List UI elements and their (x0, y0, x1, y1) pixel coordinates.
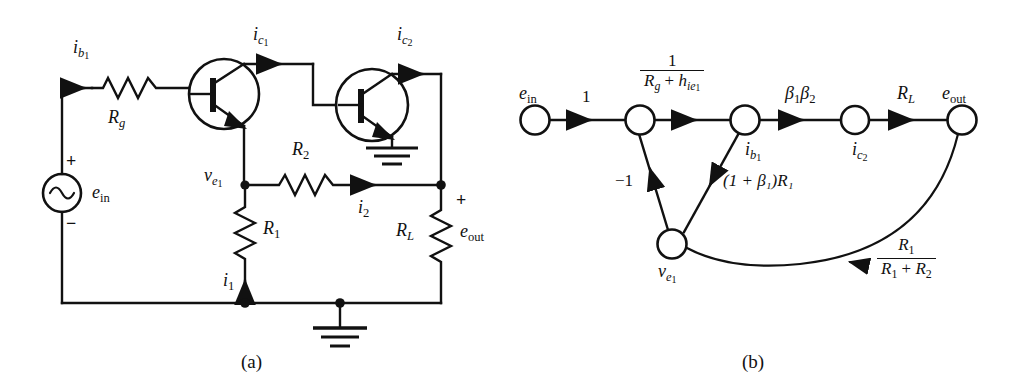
figure-artwork (0, 0, 1012, 384)
label-output-eout: eout (460, 222, 484, 244)
flow-node-ib1[interactable] (731, 106, 760, 135)
flow-node-ve1[interactable] (658, 230, 687, 259)
ground-symbol-main (313, 303, 367, 346)
flow-label-gain-1-over-rg-plus-hie1: 1 Rg + hie1 (640, 52, 704, 94)
wire-q1c-to-q2b (313, 64, 339, 105)
label-current-i2: i2 (358, 198, 369, 220)
flow-label-gain-rl: RL (897, 84, 915, 106)
label-resistor-r2: R2 (292, 140, 309, 162)
label-resistor-r1: R1 (263, 219, 280, 241)
resistor-rl (431, 185, 451, 303)
flow-label-node-ve1: ve1 (658, 262, 677, 285)
flow-label-gain-beta1-beta2: β1β2 (785, 84, 816, 106)
flow-node-eout[interactable] (948, 106, 977, 135)
ground-symbol-q2 (366, 148, 418, 164)
resistor-rg (92, 78, 190, 98)
label-current-ic2: ic2 (397, 25, 413, 48)
caption-b: (b) (742, 352, 764, 371)
flow-node-n2[interactable] (626, 106, 655, 135)
flow-label-gain-r1-over-r1-plus-r2: R1 R1 + R2 (877, 236, 936, 280)
flow-label-node-ic2: ic2 (852, 140, 868, 163)
label-current-ib1: ib1 (73, 38, 89, 61)
figure-container: ib1 Rg ic1 ic2 + ein − ve1 R2 i2 R1 i1 R… (0, 0, 1012, 384)
flow-node-ic2[interactable] (841, 106, 869, 134)
caption-a: (a) (241, 352, 262, 371)
branch-ve1-n2 (639, 134, 668, 230)
flow-label-gain-1-plus-beta1-r1: (1 + β₁)R₁ (723, 172, 793, 189)
label-source-minus: − (66, 214, 76, 232)
label-resistor-rg: Rg (108, 108, 125, 130)
flow-label-gain-1: 1 (582, 88, 591, 105)
node-dot-bottom-left (240, 298, 250, 308)
label-current-ic1: ic1 (253, 25, 269, 48)
label-resistor-rl: RL (396, 221, 414, 243)
label-current-i1: i1 (223, 271, 234, 293)
label-source-ein: ein (92, 183, 110, 205)
resistor-r2 (245, 175, 441, 195)
flow-label-node-ib1: ib1 (745, 140, 761, 163)
transistor-q2 (336, 69, 441, 147)
ac-source (43, 88, 81, 303)
flow-label-gain-minus-1: −1 (615, 172, 633, 189)
label-output-plus: + (456, 191, 466, 209)
flow-node-ein[interactable] (521, 106, 550, 135)
label-node-ve1: ve1 (204, 166, 223, 189)
flow-label-node-ein: ein (519, 84, 537, 106)
label-source-plus: + (66, 152, 76, 170)
flow-label-node-eout: eout (942, 84, 966, 106)
